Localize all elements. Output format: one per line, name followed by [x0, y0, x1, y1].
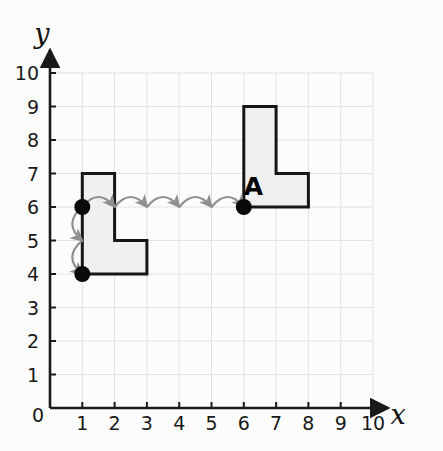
y-axis-tick-label: 7 — [27, 163, 39, 185]
x-axis-tick-label: 10 — [361, 412, 385, 434]
y-axis-tick-label: 4 — [27, 263, 39, 285]
y-axis-tick-label: 8 — [27, 129, 39, 151]
x-axis-tick-label: 9 — [335, 412, 347, 434]
marked-point-left-lower — [74, 266, 90, 282]
x-axis-tick-label: 3 — [141, 412, 153, 434]
figure-background — [0, 0, 443, 451]
y-axis-tick-label: 6 — [27, 196, 39, 218]
coordinate-grid-figure: 1234567891012345678910 x y 0 A — [0, 0, 443, 451]
origin-tick-label: 0 — [32, 404, 44, 426]
x-axis-tick-label: 6 — [238, 412, 250, 434]
y-axis-tick-label: 2 — [27, 330, 39, 352]
x-axis-tick-label: 8 — [302, 412, 314, 434]
y-axis-tick-label: 10 — [15, 62, 39, 84]
x-axis-tick-label: 5 — [205, 412, 217, 434]
x-axis-tick-label: 2 — [109, 412, 121, 434]
x-axis-tick-label: 1 — [76, 412, 88, 434]
marked-point-A-origin — [236, 199, 252, 215]
x-axis-tick-label: 7 — [270, 412, 282, 434]
marked-point-left-upper — [74, 199, 90, 215]
y-axis-tick-label: 1 — [27, 364, 39, 386]
x-axis-label: x — [390, 399, 405, 430]
y-axis-tick-label: 3 — [27, 297, 39, 319]
y-axis-label: y — [33, 18, 50, 49]
shape-label-a: A — [244, 172, 264, 201]
y-axis-tick-label: 9 — [27, 96, 39, 118]
plot-svg: 1234567891012345678910 x y 0 A — [0, 0, 443, 451]
y-axis-tick-label: 5 — [27, 230, 39, 252]
x-axis-tick-label: 4 — [173, 412, 185, 434]
